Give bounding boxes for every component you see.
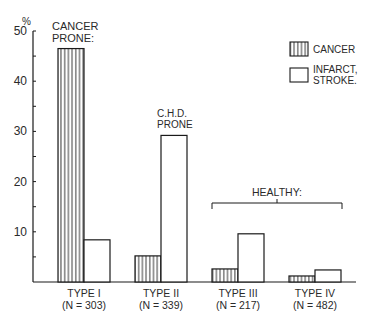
x-category-label: TYPE IV [295,287,335,299]
bars [58,49,341,282]
x-category-sublabel: (N = 217) [216,299,260,311]
annotation-healthy: HEALTHY: [252,186,302,198]
x-category-label: TYPE III [218,287,257,299]
legend-label-cancer: CANCER [313,44,355,55]
y-tick-label: 20 [14,175,28,189]
annotation-chd-prone: C.H.D. [157,108,187,119]
healthy-bracket [212,199,342,209]
legend-swatch-cancer [290,42,308,56]
y-tick-label: 30 [14,124,28,138]
x-axis-labels: TYPE I(N = 303)TYPE II(N = 339)TYPE III(… [62,287,337,311]
x-category-sublabel: (N = 482) [293,299,337,311]
legend: CANCERINFARCT,STROKE. [290,42,357,86]
legend-label-infarct-stroke: STROKE. [313,75,357,86]
bar-cancer-type-3 [212,269,238,282]
y-tick-label: 10 [14,225,28,239]
bar-infarct-stroke-type-3 [238,234,264,282]
bar-infarct-stroke-type-4 [315,270,341,282]
x-category-label: TYPE I [67,287,100,299]
legend-label-infarct-stroke: INFARCT, [313,64,357,75]
y-axis-unit: % [22,16,31,27]
legend-swatch-infarct-stroke [290,68,308,82]
annotation-chd-prone: PRONE [157,119,193,130]
y-tick-label: 40 [14,74,28,88]
x-category-sublabel: (N = 339) [139,299,183,311]
bar-cancer-type-1 [58,49,84,282]
bar-cancer-type-4 [289,276,315,282]
annotation-cancer-prone: CANCER [52,20,99,32]
annotation-cancer-prone: PRONE: [52,32,94,44]
bar-chart: 1020304050% TYPE I(N = 303)TYPE II(N = 3… [0,0,370,321]
x-category-sublabel: (N = 303) [62,299,106,311]
bar-infarct-stroke-type-1 [84,240,110,282]
bar-infarct-stroke-type-2 [161,135,187,282]
bar-cancer-type-2 [135,256,161,282]
x-category-label: TYPE II [143,287,179,299]
